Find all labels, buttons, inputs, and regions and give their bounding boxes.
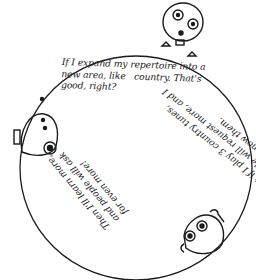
comic-panel: If I expand my repertoire into anew area… [0,0,256,280]
top-character-icon [162,3,203,56]
left-character-icon [14,98,58,156]
